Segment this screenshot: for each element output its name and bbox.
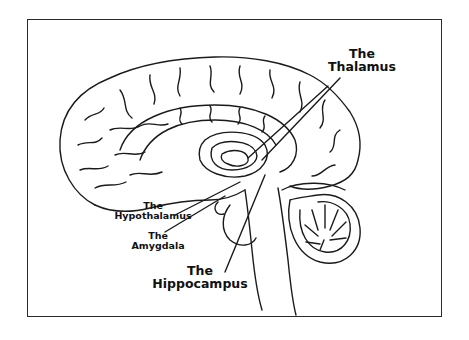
label-thalamus-line2: Thalamus	[323, 60, 401, 73]
label-hypothalamus-line2: Hypothalamus	[98, 211, 208, 221]
label-hippocampus: The Hippocampus	[148, 264, 252, 290]
thalamus-mass	[221, 151, 248, 166]
label-hippocampus-line2: Hippocampus	[148, 277, 252, 290]
pointer-thalamus-2	[248, 86, 328, 158]
label-hypothalamus: The Hypothalamus	[98, 201, 208, 221]
label-amygdala: The Amygdala	[122, 231, 194, 251]
label-thalamus: The Thalamus	[323, 47, 401, 73]
label-amygdala-line2: Amygdala	[122, 241, 194, 251]
brainstem	[245, 190, 262, 310]
cerebellum	[282, 183, 360, 263]
